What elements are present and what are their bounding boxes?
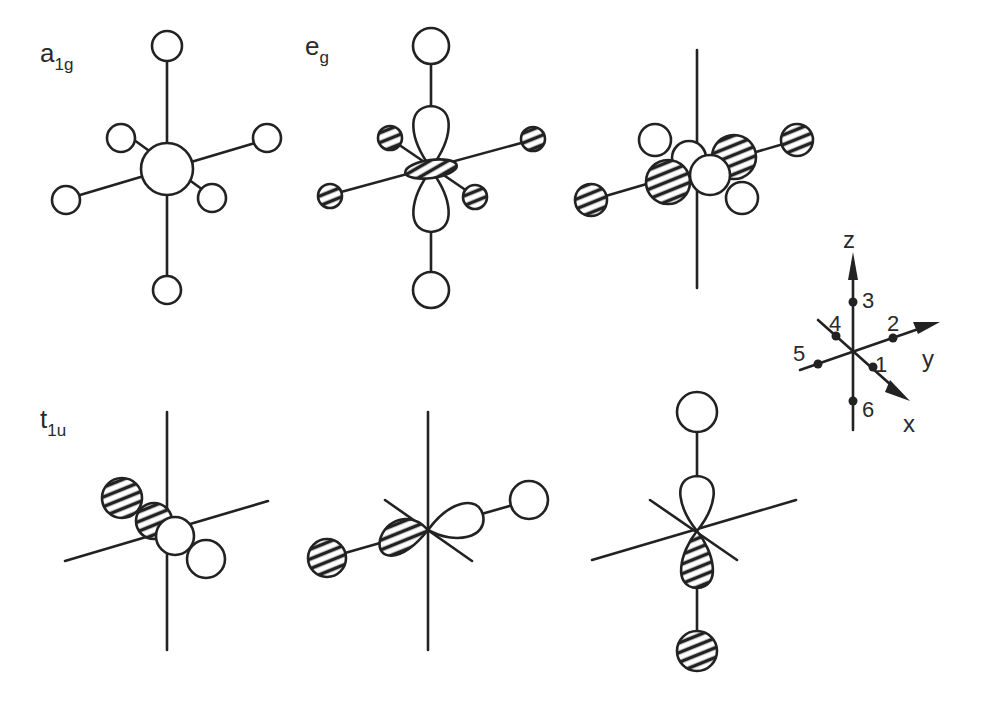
position-5 bbox=[814, 360, 823, 369]
ligand-3 bbox=[677, 392, 717, 432]
ligand-2 bbox=[510, 481, 548, 519]
ligand-5 bbox=[52, 186, 80, 214]
ligand-3 bbox=[413, 28, 449, 64]
ligand-4 bbox=[102, 478, 142, 518]
ligand-5 bbox=[318, 184, 342, 208]
number-6: 6 bbox=[862, 397, 874, 422]
axes-key: z y x 1 2 3 4 5 6 bbox=[793, 226, 940, 437]
ligand-4 bbox=[378, 126, 402, 150]
panel-eg-dx2y2 bbox=[575, 50, 813, 288]
ligand-5 bbox=[308, 539, 346, 577]
ligand-6 bbox=[677, 631, 717, 671]
label-eg: eg bbox=[305, 31, 329, 67]
x-arrowhead bbox=[885, 380, 910, 401]
ligand-1 bbox=[463, 185, 487, 209]
position-3 bbox=[849, 298, 858, 307]
label-a1g: a1g bbox=[40, 38, 73, 74]
ligand-4 bbox=[107, 124, 135, 152]
metal-s-orbital bbox=[141, 143, 193, 195]
dx2y2-left-lobe bbox=[646, 160, 690, 204]
z-arrowhead bbox=[848, 252, 858, 280]
py-left-lobe bbox=[380, 519, 428, 556]
position-6 bbox=[849, 397, 858, 406]
panel-eg-dz2: eg bbox=[305, 28, 545, 308]
dx2y2-front-lobe bbox=[690, 155, 730, 195]
y-arrowhead bbox=[913, 322, 940, 334]
ligand-2 bbox=[253, 124, 281, 152]
number-4: 4 bbox=[829, 311, 841, 336]
panel-a1g: a1g bbox=[40, 31, 281, 304]
ligand-2 bbox=[781, 124, 813, 156]
number-1: 1 bbox=[875, 352, 887, 377]
axis-label-z: z bbox=[843, 226, 855, 253]
axis-label-y: y bbox=[922, 345, 934, 372]
label-t1u: t1u bbox=[40, 404, 66, 440]
ligand-6 bbox=[413, 272, 449, 308]
panel-t1u-px: t1u bbox=[40, 404, 268, 650]
ligand-4 bbox=[639, 124, 671, 156]
ligand-5 bbox=[575, 184, 607, 216]
ligand-1 bbox=[187, 540, 225, 578]
py-right-lobe bbox=[428, 503, 484, 538]
panel-t1u-pz bbox=[592, 392, 796, 671]
ligand-6 bbox=[153, 276, 181, 304]
ligand-3 bbox=[152, 31, 182, 61]
octahedral-mo-diagram: a1g eg bbox=[0, 0, 987, 708]
axis-label-x: x bbox=[903, 410, 915, 437]
ligand-2 bbox=[521, 127, 545, 151]
ligand-1 bbox=[198, 184, 226, 212]
number-2: 2 bbox=[887, 311, 899, 336]
number-3: 3 bbox=[862, 288, 874, 313]
pz-upper-lobe bbox=[680, 476, 713, 531]
number-5: 5 bbox=[793, 341, 805, 366]
panel-t1u-py bbox=[308, 412, 548, 650]
ligand-1 bbox=[726, 182, 758, 214]
